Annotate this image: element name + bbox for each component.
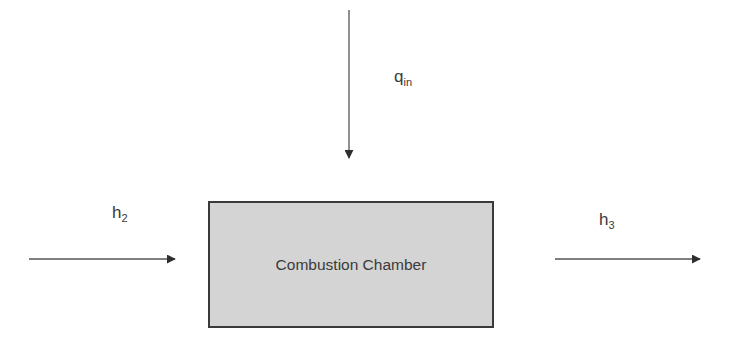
outlet-enthalpy-label: h3: [599, 211, 615, 231]
outlet-enthalpy-label-sub: 3: [608, 219, 614, 231]
heat-input-label: qin: [394, 68, 412, 88]
combustion-chamber-label: Combustion Chamber: [276, 256, 427, 274]
heat-input-label-sub: in: [403, 76, 412, 88]
combustion-chamber-box: Combustion Chamber: [208, 201, 494, 328]
inlet-enthalpy-label-sub: 2: [121, 212, 127, 224]
inlet-enthalpy-label: h2: [112, 204, 128, 224]
